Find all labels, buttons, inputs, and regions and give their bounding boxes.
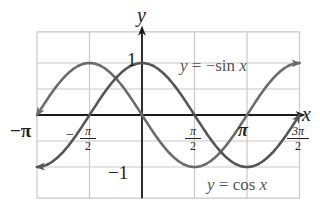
chart-canvas	[0, 0, 320, 214]
tick-label-half-pi: π 2	[185, 125, 201, 152]
tick-label-neg-pi: −π	[10, 121, 31, 140]
frac-den: 2	[185, 139, 201, 152]
y-axis-label: y	[137, 5, 146, 25]
cos-curve-label-text: y = cos x	[207, 175, 267, 194]
frac-den: 2	[287, 139, 309, 152]
cos-curve-label: y = cos x	[207, 176, 267, 193]
sin-curve-label-text: y = −sin x	[180, 56, 247, 75]
sin-curve-label: y = −sin x	[180, 57, 247, 74]
tick-label-three-half-pi: 3π 2	[287, 125, 309, 152]
frac-num: π	[80, 125, 96, 139]
frac-den: 2	[80, 139, 96, 152]
axes	[37, 28, 304, 198]
tick-label-neg-half-pi: π 2	[80, 125, 96, 152]
tick-label-neg-half-pi-sign: −	[66, 128, 74, 142]
tick-label-pi: π	[238, 121, 248, 139]
x-axis-label: x	[302, 104, 311, 124]
tick-label-one: 1	[127, 50, 137, 69]
tick-label-neg-one: −1	[108, 163, 128, 182]
frac-num: 3π	[287, 125, 309, 139]
frac-num: π	[185, 125, 201, 139]
